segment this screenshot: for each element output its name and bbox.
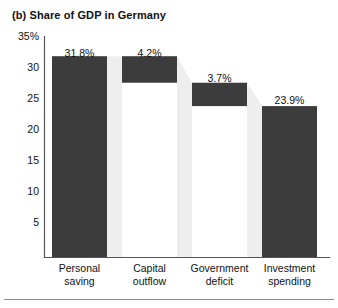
x-axis-label-personal-saving-line2: saving	[64, 275, 95, 287]
bar-personal-saving	[52, 56, 107, 257]
connector-band-2	[177, 56, 192, 257]
bar-investment-spending	[262, 106, 317, 257]
y-tick-label: 35%	[18, 30, 39, 42]
x-axis-label-government-deficit: Government	[191, 262, 249, 274]
bar-capital-outflow	[122, 56, 177, 83]
x-axis-label-capital-outflow: Capital	[133, 262, 166, 274]
bar-value-label: 23.9%	[275, 94, 305, 106]
x-axis-label-personal-saving: Personal	[59, 262, 100, 274]
waterfall-chart: 35% 30 25 20 15 10 5 31.8% 4.2% 3.7% 23.…	[0, 0, 338, 308]
x-axis-label-capital-outflow-line2: outflow	[133, 275, 167, 287]
y-tick-label: 15	[27, 154, 39, 166]
y-tick-label: 20	[27, 123, 39, 135]
bar-value-label: 31.8%	[65, 47, 95, 59]
y-tick-labels: 35% 30 25 20 15 10 5	[18, 30, 39, 228]
bottom-divider	[4, 299, 334, 300]
connector-band-1	[107, 56, 122, 257]
bar-value-label: 4.2%	[138, 47, 162, 59]
bar-value-label: 3.7%	[208, 72, 232, 84]
x-axis-label-investment-spending-line2: spending	[268, 275, 311, 287]
chart-figure: (b) Share of GDP in Germany 35% 30 25 20…	[0, 0, 338, 308]
y-tick-label: 25	[27, 92, 39, 104]
y-tick-label: 10	[27, 185, 39, 197]
category-labels: Personal saving Capital outflow Governme…	[59, 262, 315, 287]
x-axis-label-investment-spending: Investment	[264, 262, 315, 274]
y-tick-label: 5	[33, 216, 39, 228]
connector-band-3	[247, 83, 262, 257]
y-tick-label: 30	[27, 61, 39, 73]
x-axis-label-government-deficit-line2: deficit	[206, 275, 234, 287]
bar-government-deficit	[192, 83, 247, 106]
